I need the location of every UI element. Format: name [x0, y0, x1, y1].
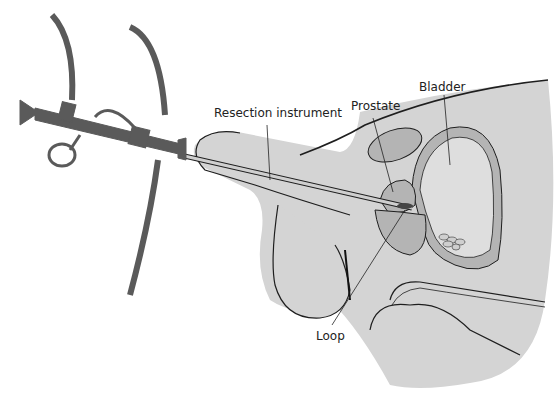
label-loop: Loop: [316, 329, 345, 343]
label-resection-instrument: Resection instrument: [214, 106, 342, 120]
loop-tip: [397, 203, 413, 209]
finger-ring: [49, 144, 75, 166]
label-prostate: Prostate: [351, 99, 400, 113]
diagram-canvas: [0, 0, 557, 401]
resectoscope: [20, 15, 186, 295]
label-bladder: Bladder: [419, 80, 465, 94]
